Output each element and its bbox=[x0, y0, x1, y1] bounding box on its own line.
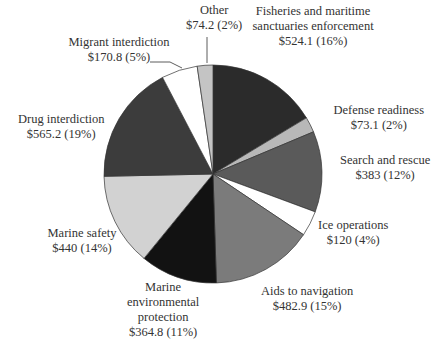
slice-label-line: Fisheries and maritime bbox=[253, 4, 374, 19]
slice-label-line: $73.1 (2%) bbox=[334, 118, 425, 133]
slice-label-line: Drug interdiction bbox=[18, 112, 104, 127]
slice-label: Drug interdiction$565.2 (19%) bbox=[18, 112, 104, 142]
slice-label-line: Marine safety bbox=[48, 226, 117, 241]
slice-label-line: Aids to navigation bbox=[261, 284, 353, 299]
slice-label-line: Defense readiness bbox=[334, 103, 425, 118]
slice-label-line: Ice operations bbox=[318, 218, 388, 233]
slice-label-line: Marine bbox=[127, 280, 199, 295]
slice-label-line: $120 (4%) bbox=[318, 233, 388, 248]
slice-label: Ice operations$120 (4%) bbox=[318, 218, 388, 248]
slice-label-line: $74.2 (2%) bbox=[186, 18, 242, 33]
slice-label-line: $440 (14%) bbox=[48, 241, 117, 256]
slice-label-line: Migrant interdiction bbox=[69, 35, 170, 50]
pie-slices bbox=[104, 65, 322, 283]
slice-label-line: sanctuaries enforcement bbox=[253, 19, 374, 34]
slice-label: Other$74.2 (2%) bbox=[186, 3, 242, 33]
slice-label: Marineenvironmentalprotection$364.8 (11%… bbox=[127, 280, 199, 340]
slice-label-line: $383 (12%) bbox=[340, 168, 430, 183]
slice-label-line: Other bbox=[186, 3, 242, 18]
slice-label: Defense readiness$73.1 (2%) bbox=[334, 103, 425, 133]
slice-label-line: $482.9 (15%) bbox=[261, 299, 353, 314]
slice-label: Fisheries and maritimesanctuaries enforc… bbox=[253, 4, 374, 49]
slice-label: Aids to navigation$482.9 (15%) bbox=[261, 284, 353, 314]
slice-label-line: $364.8 (11%) bbox=[127, 325, 199, 340]
slice-label: Search and rescue$383 (12%) bbox=[340, 153, 430, 183]
slice-label: Migrant interdiction$170.8 (5%) bbox=[69, 35, 170, 65]
slice-label-line: $524.1 (16%) bbox=[253, 34, 374, 49]
slice-label: Marine safety$440 (14%) bbox=[48, 226, 117, 256]
slice-label-line: protection bbox=[127, 310, 199, 325]
slice-label-line: Search and rescue bbox=[340, 153, 430, 168]
slice-label-line: $170.8 (5%) bbox=[69, 50, 170, 65]
slice-label-line: $565.2 (19%) bbox=[18, 127, 104, 142]
slice-label-line: environmental bbox=[127, 295, 199, 310]
